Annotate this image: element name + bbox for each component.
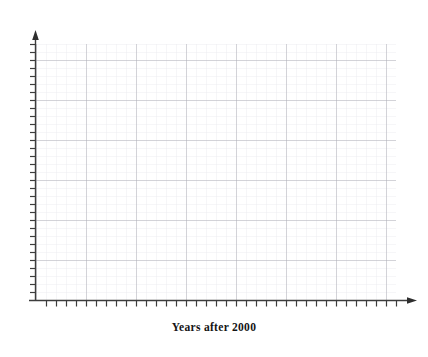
x-axis-title: Years after 2000 bbox=[0, 321, 428, 333]
coordinate-grid-plot bbox=[0, 0, 428, 357]
grid-major-lines bbox=[36, 44, 396, 300]
chart-figure: Years after 2000 bbox=[0, 0, 428, 357]
